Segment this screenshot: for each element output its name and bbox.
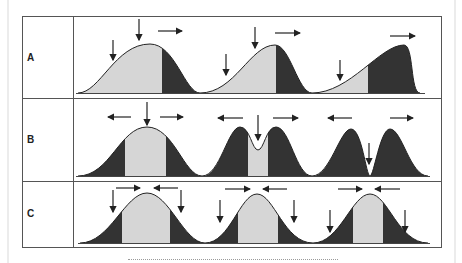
- row-label-c: C: [27, 208, 34, 219]
- selection-diagram: [0, 0, 462, 263]
- dotted-separator: [128, 259, 338, 260]
- row-label-b: B: [27, 134, 34, 145]
- row-b-curves: [70, 110, 435, 180]
- row-label-a: A: [27, 52, 34, 63]
- row-c-curves: [75, 185, 433, 250]
- row-a-curves: [70, 30, 428, 100]
